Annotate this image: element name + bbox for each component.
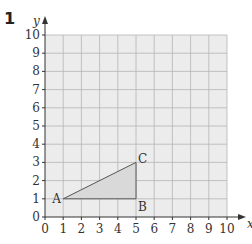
y-axis-arrow-icon [42,16,48,24]
x-tick-label: 6 [150,222,158,236]
vertex-label-b: B [138,200,147,214]
y-tick-label: 6 [32,101,40,115]
vertex-label-a: A [51,192,61,206]
x-tick-label: 9 [205,222,213,236]
y-tick-label: 5 [32,119,40,133]
x-tick-label: 0 [41,222,49,236]
x-tick-label: 2 [78,222,86,236]
x-tick-label: 1 [59,222,67,236]
y-tick-label: 3 [32,155,40,169]
x-tick-label: 8 [187,222,195,236]
coordinate-grid: 012345678910012345678910xyABC [0,0,252,244]
y-tick-label: 8 [32,64,40,78]
y-tick-label: 7 [32,83,40,97]
x-axis-label: x [247,217,252,231]
x-tick-label: 10 [219,222,234,236]
vertex-label-c: C [138,152,147,166]
y-axis-label: y [32,14,40,28]
x-tick-label: 7 [169,222,177,236]
y-tick-label: 4 [32,137,40,151]
x-axis-arrow-icon [238,214,246,220]
x-tick-label: 3 [96,222,104,236]
x-tick-label: 4 [114,222,122,236]
x-tick-label: 5 [132,222,140,236]
y-tick-label: 1 [32,192,40,206]
y-tick-label: 2 [32,174,40,188]
y-tick-label: 10 [25,28,40,42]
y-tick-label: 0 [32,210,40,224]
y-tick-label: 9 [32,46,40,60]
